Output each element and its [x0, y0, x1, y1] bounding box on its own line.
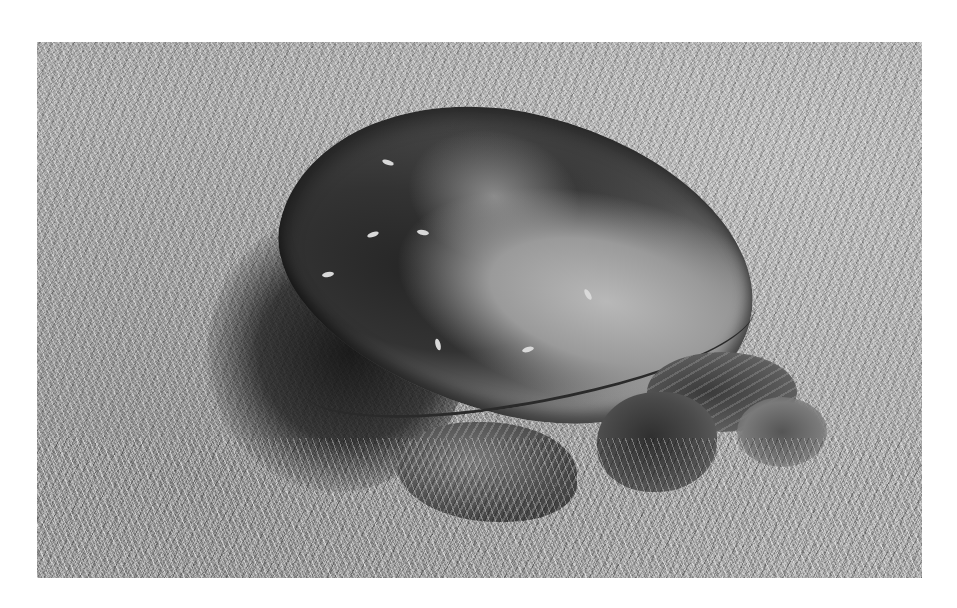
turtle-photo [37, 42, 922, 578]
foreground-grass [37, 438, 922, 578]
